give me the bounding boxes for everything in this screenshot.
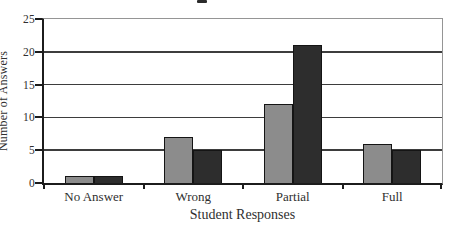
x-category-label-wrong: Wrong <box>143 189 243 205</box>
x-axis-title: Student Responses <box>42 206 443 223</box>
x-tick-mark-4 <box>440 185 442 189</box>
y-tick-mark-5 <box>35 149 42 151</box>
y-tick-label-25: 25 <box>8 12 35 26</box>
y-tick-mark-0 <box>35 182 42 184</box>
x-tick-mark-2 <box>242 185 244 189</box>
y-axis-title: Number of Answers <box>0 19 11 183</box>
cropped-title-fragment <box>197 0 207 3</box>
bar-dark-series-no-answer <box>94 176 123 183</box>
x-tick-mark-1 <box>143 185 145 189</box>
bar-gray-series-wrong <box>164 137 193 183</box>
y-tick-label-15: 15 <box>8 78 35 92</box>
y-tick-mark-15 <box>35 84 42 86</box>
y-tick-label-5: 5 <box>8 143 35 157</box>
bar-dark-series-full <box>392 150 421 183</box>
x-category-label-partial: Partial <box>243 189 343 205</box>
x-category-label-full: Full <box>342 189 442 205</box>
y-tick-mark-20 <box>35 51 42 53</box>
y-tick-label-0: 0 <box>8 176 35 190</box>
x-category-label-no-answer: No Answer <box>44 189 144 205</box>
gridline-10 <box>44 117 442 119</box>
y-tick-mark-10 <box>35 116 42 118</box>
gridline-15 <box>44 84 442 86</box>
bar-dark-series-partial <box>293 45 322 183</box>
bar-gray-series-full <box>363 144 392 183</box>
bar-gray-series-no-answer <box>65 176 94 183</box>
bar-dark-series-wrong <box>193 150 222 183</box>
plot-area <box>42 18 443 185</box>
y-tick-label-20: 20 <box>8 45 35 59</box>
x-tick-mark-0 <box>43 185 45 189</box>
y-tick-label-10: 10 <box>8 110 35 124</box>
x-tick-mark-3 <box>342 185 344 189</box>
bar-chart: Number of Answers Student Responses 0510… <box>0 0 449 231</box>
y-tick-mark-25 <box>35 18 42 20</box>
gridline-20 <box>44 51 442 53</box>
bar-gray-series-partial <box>264 104 293 183</box>
